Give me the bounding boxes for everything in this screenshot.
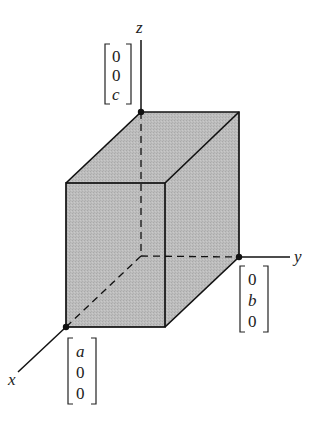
z-axis-label: z	[135, 18, 143, 37]
point-c	[138, 109, 144, 115]
b-vector: 0 b 0	[240, 266, 268, 332]
svg-text:0: 0	[248, 312, 257, 331]
y-axis-label: y	[292, 247, 302, 266]
svg-text:a: a	[76, 342, 85, 361]
svg-text:0: 0	[112, 47, 121, 66]
point-a	[63, 324, 69, 330]
x-axis	[18, 327, 66, 372]
a-vector: a 0 0	[68, 338, 96, 404]
x-axis-label: x	[7, 370, 16, 389]
svg-text:0: 0	[76, 363, 85, 382]
svg-text:b: b	[248, 291, 257, 310]
c-vector: 0 0 c	[105, 44, 131, 104]
svg-text:0: 0	[248, 270, 257, 289]
front-face	[66, 183, 165, 327]
svg-text:c: c	[112, 85, 120, 104]
svg-text:0: 0	[76, 384, 85, 403]
svg-text:0: 0	[112, 66, 121, 85]
point-b	[236, 254, 242, 260]
box-diagram: z y x 0 0 c 0 b 0 a 0 0	[0, 0, 314, 423]
